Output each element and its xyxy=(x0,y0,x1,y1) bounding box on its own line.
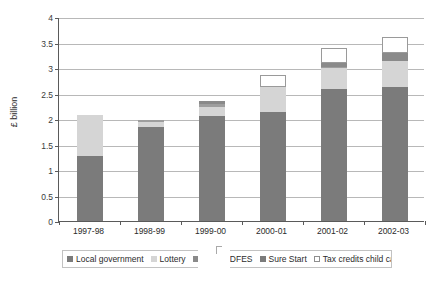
bar-stack xyxy=(77,115,103,221)
gridline xyxy=(59,95,424,96)
legend-swatch-icon xyxy=(151,256,157,262)
x-tick-label: 2001-02 xyxy=(317,226,348,236)
legend-item: Tax credits child care xyxy=(314,254,392,264)
bar-segment xyxy=(77,115,103,156)
x-tick xyxy=(364,221,365,225)
x-tick xyxy=(425,221,426,225)
x-tick xyxy=(242,221,243,225)
bar-stack xyxy=(260,75,286,221)
gridline xyxy=(59,69,424,70)
bar-stack xyxy=(138,120,164,221)
x-tick-label: 1997-98 xyxy=(73,226,104,236)
legend-occlusion-artifact xyxy=(198,244,230,270)
bar-segment xyxy=(321,68,347,89)
y-tick xyxy=(55,18,59,19)
y-tick-label: 0 xyxy=(48,217,53,227)
bar-segment xyxy=(260,75,286,87)
legend-swatch-icon xyxy=(260,256,266,262)
bar-segment xyxy=(382,53,408,62)
legend-item: Lottery xyxy=(151,254,186,264)
y-axis-title: £ billion xyxy=(9,97,19,128)
y-tick-label: 2 xyxy=(48,115,53,125)
x-tick-label: 1998-99 xyxy=(134,226,165,236)
x-tick-label: 2002-03 xyxy=(378,226,409,236)
y-tick xyxy=(55,171,59,172)
legend-swatch-icon xyxy=(314,256,320,262)
bar-segment xyxy=(382,37,408,52)
gridline xyxy=(59,44,424,45)
y-tick xyxy=(55,197,59,198)
legend-item: Local government xyxy=(67,254,144,264)
gridline xyxy=(59,146,424,147)
x-tick-label: 1999-00 xyxy=(195,226,226,236)
y-tick xyxy=(55,120,59,121)
bar-segment xyxy=(199,107,225,117)
plot-area: 00.511.522.533.54 xyxy=(58,18,424,222)
legend-label: Sure Start xyxy=(269,254,307,264)
bar-segment xyxy=(260,87,286,111)
x-tick-label: 2000-01 xyxy=(256,226,287,236)
y-tick xyxy=(55,69,59,70)
legend-label: Tax credits child care xyxy=(323,254,392,264)
legend-occlusion-mark xyxy=(216,246,222,254)
legend-item: Sure Start xyxy=(260,254,307,264)
x-tick xyxy=(303,221,304,225)
bar-segment xyxy=(321,89,347,221)
legend-label: Local government xyxy=(76,254,144,264)
y-tick-label: 4 xyxy=(48,13,53,23)
gridline xyxy=(59,18,424,19)
legend-label: Lottery xyxy=(160,254,186,264)
bar-stack xyxy=(199,101,225,221)
bar-segment xyxy=(321,48,347,63)
y-tick xyxy=(55,95,59,96)
bar-segment xyxy=(199,116,225,221)
y-tick xyxy=(55,146,59,147)
bar-stack xyxy=(382,37,408,221)
bar-segment xyxy=(138,127,164,221)
legend-swatch-icon xyxy=(67,256,73,262)
y-tick-label: 3.5 xyxy=(41,39,53,49)
bar-segment xyxy=(382,61,408,87)
y-tick-label: 1.5 xyxy=(41,141,53,151)
gridline xyxy=(59,120,424,121)
x-tick xyxy=(181,221,182,225)
y-tick xyxy=(55,44,59,45)
bar-segment xyxy=(382,87,408,221)
legend-item: DFES xyxy=(230,254,253,264)
y-tick-label: 1 xyxy=(48,166,53,176)
gridline xyxy=(59,197,424,198)
gridline xyxy=(59,171,424,172)
x-tick xyxy=(120,221,121,225)
bar-segment xyxy=(77,156,103,221)
y-tick-label: 0.5 xyxy=(41,192,53,202)
bar-stack xyxy=(321,48,347,221)
y-tick-label: 2.5 xyxy=(41,90,53,100)
y-tick-label: 3 xyxy=(48,64,53,74)
bar-segment xyxy=(260,112,286,221)
x-tick xyxy=(59,221,60,225)
legend-label: DFES xyxy=(230,254,253,264)
stacked-bar-chart: £ billion 00.511.522.533.54 1997-981998-… xyxy=(0,0,442,288)
